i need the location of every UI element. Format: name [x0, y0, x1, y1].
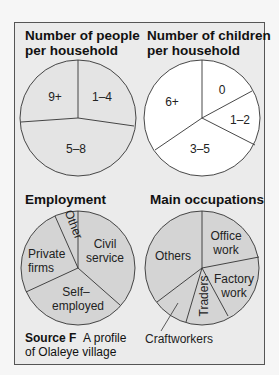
label-employment-self: Self–	[62, 285, 90, 299]
source-label: Source F	[25, 331, 76, 345]
label-occ-factory: Factory	[214, 272, 254, 286]
label-employment-firms: firms	[28, 261, 54, 275]
pie-charts: 9+ 1–4 5–8 6+ 0 1–2 3–5 Other Civil serv…	[0, 0, 279, 375]
label-children-0: 0	[219, 83, 226, 97]
label-people-1-4: 1–4	[92, 90, 112, 104]
figure-caption: Source F A profile of Olaleye village	[25, 331, 126, 359]
label-occ-factory-work: work	[220, 286, 247, 300]
label-children-1-2: 1–2	[230, 113, 250, 127]
label-occ-office: Office	[210, 229, 241, 243]
caption-text: A profile	[83, 331, 126, 345]
label-occ-traders: Traders	[197, 276, 211, 317]
label-occ-office-work: work	[212, 243, 239, 257]
label-people-5-8: 5–8	[66, 142, 86, 156]
label-people-9plus: 9+	[48, 90, 62, 104]
label-children-6plus: 6+	[165, 95, 179, 109]
label-occ-craftworkers: Craftworkers	[145, 332, 213, 346]
caption-line-2: of Olaleye village	[25, 345, 126, 359]
label-occ-others: Others	[155, 249, 191, 263]
caption-line-1: Source F A profile	[25, 331, 126, 345]
label-employment-service: service	[86, 251, 124, 265]
label-employment-employed: employed	[52, 299, 104, 313]
label-children-3-5: 3–5	[190, 142, 210, 156]
pie-people	[20, 60, 136, 176]
label-employment-civil: Civil	[94, 237, 117, 251]
label-employment-private: Private	[28, 247, 66, 261]
